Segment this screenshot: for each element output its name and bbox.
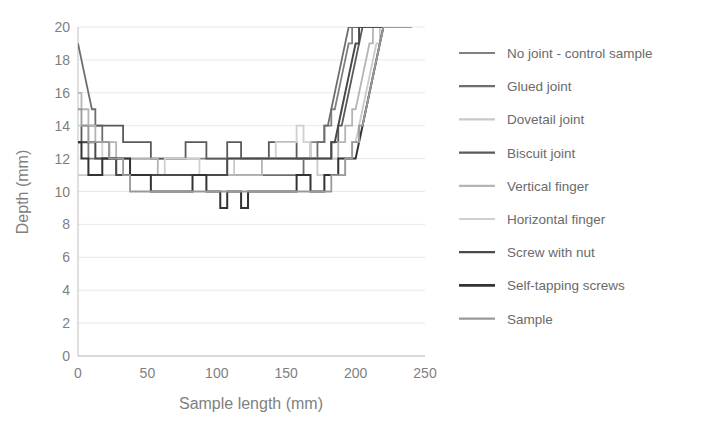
x-axis-title: Sample length (mm) xyxy=(179,395,323,412)
y-tick-label: 14 xyxy=(54,118,70,134)
series-line-4 xyxy=(78,27,411,175)
x-tick-label: 0 xyxy=(74,365,82,381)
series-line-1 xyxy=(78,27,411,175)
legend-item[interactable]: Sample xyxy=(459,312,553,327)
y-tick-label: 12 xyxy=(54,151,70,167)
legend-label: No joint - control sample xyxy=(507,46,653,61)
legend-item[interactable]: Dovetail joint xyxy=(459,112,585,127)
x-tick-label: 250 xyxy=(413,365,437,381)
legend-label: Dovetail joint xyxy=(507,112,585,127)
series-line-2 xyxy=(78,27,411,175)
legend-label: Screw with nut xyxy=(507,245,595,260)
legend-item[interactable]: Screw with nut xyxy=(459,245,595,260)
series-paths xyxy=(78,27,411,208)
y-tick-label: 8 xyxy=(62,216,70,232)
legend-label: Horizontal finger xyxy=(507,212,606,227)
y-tick-label: 10 xyxy=(54,184,70,200)
legend-item[interactable]: Glued joint xyxy=(459,79,572,94)
x-tick-label: 100 xyxy=(205,365,229,381)
y-tick-label: 2 xyxy=(62,315,70,331)
legend-item[interactable]: Vertical finger xyxy=(459,179,589,194)
legend-item[interactable]: Horizontal finger xyxy=(459,212,606,227)
chart-legend: No joint - control sampleGlued jointDove… xyxy=(459,46,653,327)
x-tick-label: 200 xyxy=(344,365,368,381)
legend-label: Self-tapping screws xyxy=(507,278,625,293)
y-tick-label: 16 xyxy=(54,85,70,101)
y-tick-label: 0 xyxy=(62,348,70,364)
chart-container: 02468101214161820 050100150200250 No joi… xyxy=(0,0,722,439)
x-tick-label: 50 xyxy=(140,365,156,381)
legend-item[interactable]: No joint - control sample xyxy=(459,46,653,61)
y-axis-title: Depth (mm) xyxy=(14,150,31,234)
data-series xyxy=(78,27,411,208)
series-line-6 xyxy=(78,27,411,175)
x-tick-label: 150 xyxy=(275,365,299,381)
legend-item[interactable]: Biscuit joint xyxy=(459,146,576,161)
line-chart: 02468101214161820 050100150200250 No joi… xyxy=(0,0,722,439)
y-axis-tick-labels: 02468101214161820 xyxy=(54,19,70,364)
series-line-8 xyxy=(78,27,411,192)
y-tick-label: 20 xyxy=(54,19,70,35)
y-tick-label: 6 xyxy=(62,249,70,265)
legend-item[interactable]: Self-tapping screws xyxy=(459,278,625,293)
y-tick-label: 18 xyxy=(54,52,70,68)
legend-label: Glued joint xyxy=(507,79,572,94)
legend-label: Biscuit joint xyxy=(507,146,576,161)
y-tick-label: 4 xyxy=(62,282,70,298)
legend-label: Sample xyxy=(507,312,553,327)
legend-label: Vertical finger xyxy=(507,179,589,194)
x-axis-tick-labels: 050100150200250 xyxy=(74,365,437,381)
series-line-5 xyxy=(78,27,411,175)
